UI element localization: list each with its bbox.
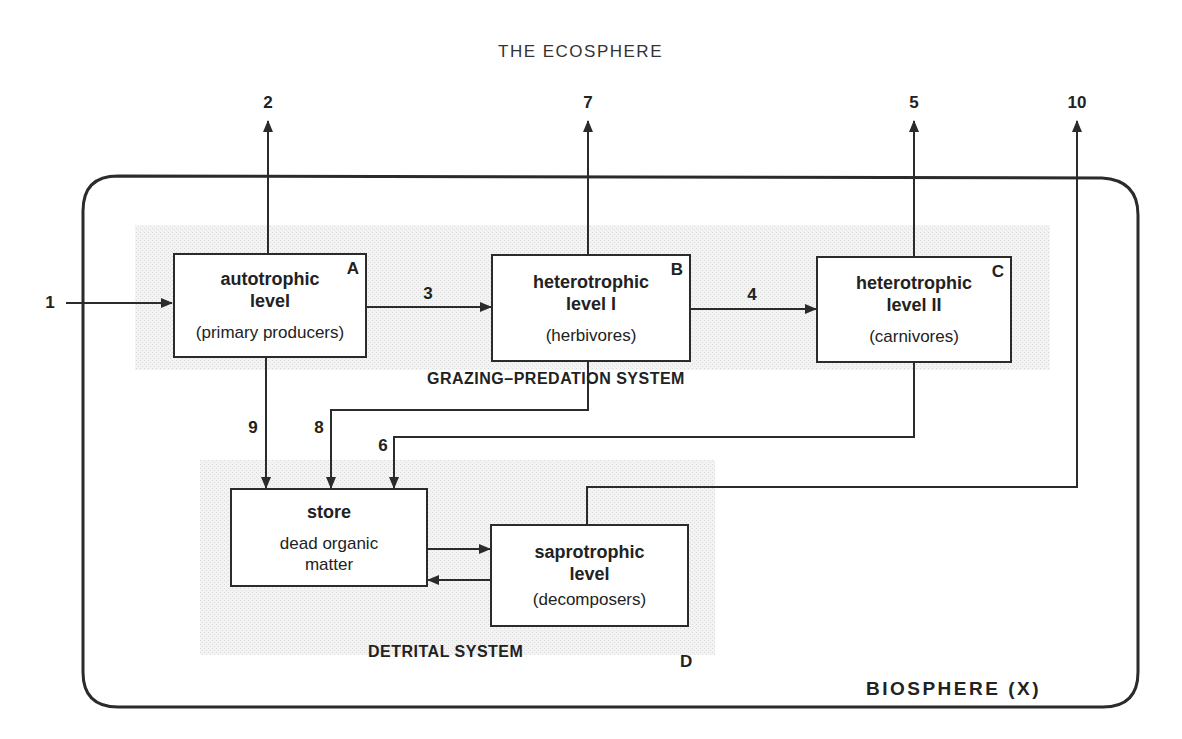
compartment-c-title-line2: level II	[886, 294, 941, 316]
compartment-letter-a: A	[347, 259, 359, 279]
store-title: store	[307, 501, 351, 523]
compartment-d-subtitle: (decomposers)	[533, 589, 646, 610]
flow-label-2: 2	[263, 93, 272, 113]
compartment-a-subtitle: (primary producers)	[196, 322, 344, 343]
compartment-b-heterotrophic-1: B heterotrophic level I (herbivores)	[491, 254, 691, 362]
compartment-a-autotrophic: A autotrophic level (primary producers)	[173, 253, 367, 358]
compartment-c-heterotrophic-2: C heterotrophic level II (carnivores)	[816, 256, 1012, 363]
flow-label-5: 5	[909, 93, 918, 113]
compartment-a-title-line1: autotrophic	[221, 268, 320, 290]
flow-label-9: 9	[248, 418, 257, 438]
flow-label-10: 10	[1068, 93, 1087, 113]
compartment-d-saprotrophic: saprotrophic level (decomposers)	[490, 524, 689, 627]
grazing-predation-system-label: GRAZING–PREDATION SYSTEM	[427, 370, 685, 388]
compartment-d-title-line2: level	[569, 563, 609, 585]
compartment-store-dead-organic-matter: store dead organic matter	[230, 488, 428, 587]
compartment-b-subtitle: (herbivores)	[546, 325, 637, 346]
compartment-c-subtitle: (carnivores)	[869, 326, 959, 347]
detrital-system-label: DETRITAL SYSTEM	[368, 643, 523, 661]
page-title: THE ECOSPHERE	[498, 42, 663, 62]
flow-label-7: 7	[583, 93, 592, 113]
compartment-letter-b: B	[671, 260, 683, 280]
flow-label-6: 6	[378, 436, 387, 456]
compartment-b-title-line1: heterotrophic	[533, 271, 649, 293]
compartment-a-title-line2: level	[250, 290, 290, 312]
flow-label-3: 3	[423, 284, 432, 304]
compartment-b-title-line2: level I	[566, 293, 616, 315]
flow-label-8: 8	[314, 418, 323, 438]
compartment-d-title-line1: saprotrophic	[534, 541, 644, 563]
compartment-letter-c: C	[992, 262, 1004, 282]
flow-label-4: 4	[747, 285, 756, 305]
compartment-letter-d: D	[680, 652, 692, 672]
compartment-c-title-line1: heterotrophic	[856, 272, 972, 294]
store-subtitle-line2: matter	[305, 554, 353, 575]
flow-label-1: 1	[45, 293, 54, 313]
biosphere-label: BIOSPHERE (X)	[866, 678, 1041, 700]
store-subtitle-line1: dead organic	[280, 533, 378, 554]
